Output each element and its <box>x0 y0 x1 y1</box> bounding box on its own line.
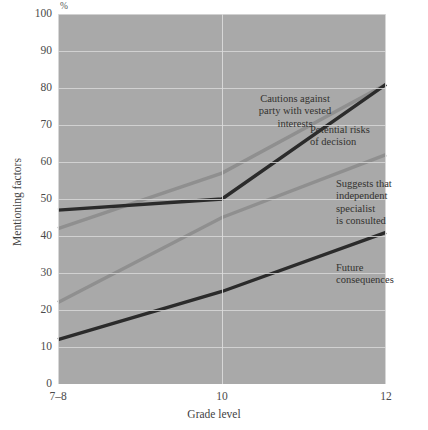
x-axis-label: Grade level <box>0 408 428 420</box>
gridline-vertical <box>222 14 223 384</box>
y-axis-ticks: 1009080706050403020100 <box>0 14 52 384</box>
y-axis-tick-label: 20 <box>6 304 52 316</box>
y-axis-tick-label: 0 <box>6 378 52 390</box>
y-axis-tick-label: 90 <box>6 45 52 57</box>
series-annotation-future-consequences: Future consequences <box>336 262 426 287</box>
y-axis-label: Mentioning factors <box>11 122 23 282</box>
y-axis-tick-label: 100 <box>6 8 52 20</box>
series-annotation-potential-risks: Potential risks of decision <box>310 124 406 149</box>
line-chart: % 1009080706050403020100 Grade level Men… <box>0 0 428 430</box>
x-axis-tick-label: 7–8 <box>49 390 66 402</box>
gridline-vertical <box>58 14 59 384</box>
x-axis-tick-label: 12 <box>380 390 392 402</box>
y-axis-unit-label: % <box>60 1 68 11</box>
series-annotation-suggests: Suggests that independent specialist is … <box>336 178 426 228</box>
y-axis-tick-label: 10 <box>6 341 52 353</box>
y-axis-tick-label: 80 <box>6 82 52 94</box>
x-axis-tick-label: 10 <box>216 390 228 402</box>
